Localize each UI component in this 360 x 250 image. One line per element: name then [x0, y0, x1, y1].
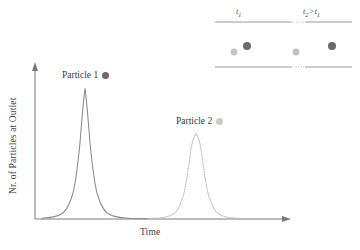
inset-microchannel: [215, 22, 352, 67]
legend-dot-particle-2: [216, 118, 223, 125]
inset-time-label-t1: t1: [236, 8, 241, 18]
inset-particle-light-t2: [293, 49, 300, 56]
inset-time-label-t2: t2>t1: [303, 8, 320, 18]
inset-t1-subscript: 1: [238, 12, 241, 18]
curve-particle-2: [152, 134, 254, 219]
inset-particle-dark-t1: [243, 42, 251, 50]
legend-dot-particle-1: [102, 72, 109, 79]
figure-root: Nr. of Particles at Outlet Time Particle…: [0, 0, 360, 250]
inset-particle-light-t1: [231, 49, 238, 56]
y-axis-label: Nr. of Particles at Outlet: [9, 81, 19, 211]
x-axis-arrowhead: [282, 216, 291, 222]
y-axis-arrowhead: [32, 62, 38, 71]
series-label-particle-1: Particle 1: [62, 71, 109, 81]
x-axis-label: Time: [140, 228, 160, 238]
inset-t2-rhs-subscript: 1: [317, 12, 320, 18]
curve-particle-1: [42, 89, 148, 219]
series-label-particle-2: Particle 2: [176, 117, 223, 127]
plot-axes: [32, 62, 291, 222]
series-label-particle-2-text: Particle 2: [176, 117, 212, 127]
series-label-particle-1-text: Particle 1: [62, 71, 98, 81]
inset-particle-dark-t2: [328, 42, 336, 50]
